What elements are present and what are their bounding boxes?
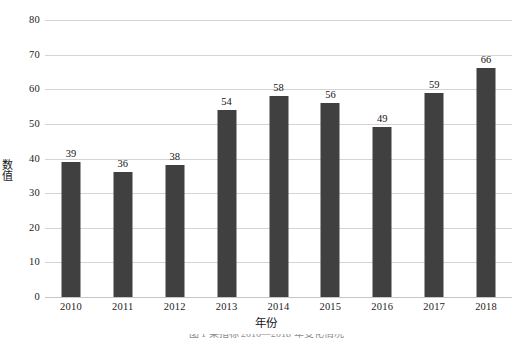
y-tick-label-60: 60 xyxy=(14,84,40,95)
x-tick-label-2015: 2015 xyxy=(304,301,356,312)
x-axis-tick-labels: 201020112012201320142015201620172018 xyxy=(45,0,512,341)
y-axis-tick-labels: 01020304050607080 xyxy=(0,20,40,297)
y-tick-label-80: 80 xyxy=(14,15,40,26)
x-tick-label-2014: 2014 xyxy=(253,301,305,312)
x-tick-label-2018: 2018 xyxy=(460,301,512,312)
x-tick-label-2017: 2017 xyxy=(408,301,460,312)
x-axis-title: 年份 xyxy=(0,317,532,330)
figure-caption-cropped: 图 1 某指标 2010—2018 年变化情况 xyxy=(0,334,532,341)
x-tick-label-2013: 2013 xyxy=(201,301,253,312)
x-tick-label-2016: 2016 xyxy=(356,301,408,312)
y-tick-label-30: 30 xyxy=(14,188,40,199)
y-tick-label-20: 20 xyxy=(14,223,40,234)
x-tick-label-2010: 2010 xyxy=(45,301,97,312)
y-tick-label-50: 50 xyxy=(14,119,40,130)
figure-caption-text: 图 1 某指标 2010—2018 年变化情况 xyxy=(0,334,532,340)
chart-screenshot: 数值 01020304050607080 393638545856495966 … xyxy=(0,0,532,341)
bar-chart: 数值 01020304050607080 393638545856495966 … xyxy=(0,0,532,341)
y-tick-label-0: 0 xyxy=(14,292,40,303)
y-tick-label-10: 10 xyxy=(14,257,40,268)
x-tick-label-2012: 2012 xyxy=(149,301,201,312)
y-tick-label-70: 70 xyxy=(14,50,40,61)
x-tick-label-2011: 2011 xyxy=(97,301,149,312)
y-tick-label-40: 40 xyxy=(14,154,40,165)
